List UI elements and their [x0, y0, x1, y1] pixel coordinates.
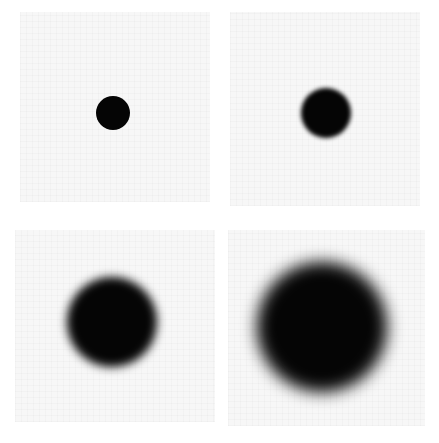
blurred-disc [257, 262, 387, 392]
panel-bottom-right [228, 230, 425, 426]
panel-top-left [20, 12, 210, 202]
panel-bottom-left [15, 230, 215, 422]
blurred-disc [301, 88, 351, 138]
panel-top-right [230, 12, 420, 206]
blurred-disc [96, 96, 130, 130]
blurred-disc [67, 277, 157, 367]
